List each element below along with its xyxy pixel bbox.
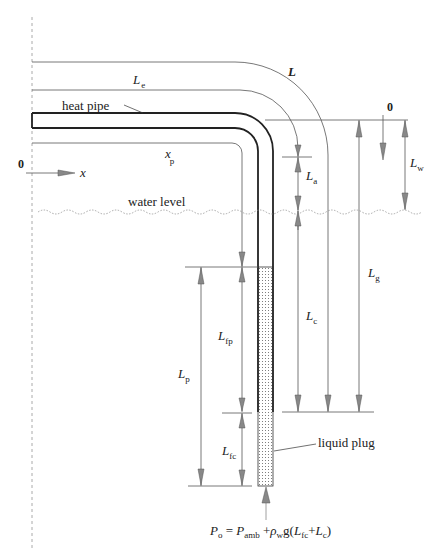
label-Lp: Lp xyxy=(177,366,190,384)
label-Lw: Lw xyxy=(409,155,424,173)
Lp-arrow-down xyxy=(198,469,204,485)
water-level-label: water level xyxy=(128,194,186,209)
label-Lfp: Lfp xyxy=(217,328,233,346)
x-axis-label: x xyxy=(79,165,86,180)
Lw-arrow-up xyxy=(402,121,408,137)
x-axis-arrowhead xyxy=(58,170,75,176)
label-Le: Le xyxy=(132,72,145,90)
Lg-arrow-up xyxy=(356,121,362,137)
Lw-arrow-down xyxy=(402,193,408,209)
Lfc-arrow-down xyxy=(239,470,245,485)
heat-pipe-outer-wall xyxy=(32,113,273,412)
liquid-plug-label: liquid plug xyxy=(318,435,375,450)
heat-pipe-label: heat pipe xyxy=(62,98,110,113)
length-L-curve xyxy=(32,62,328,412)
pressure-arrowhead xyxy=(262,487,270,503)
z-axis-arrowhead xyxy=(380,143,386,160)
heat-pipe-inner-wall xyxy=(32,128,258,412)
label-L: L xyxy=(287,64,296,79)
xp-curve xyxy=(32,143,242,412)
label-La: La xyxy=(305,168,317,186)
Lg-arrow-down xyxy=(356,395,362,411)
label-Lfc: Lfc xyxy=(221,443,236,461)
Lfp-arrow-up xyxy=(239,268,245,282)
Lp-arrow-up xyxy=(198,268,204,284)
liquid-plug xyxy=(258,267,273,486)
label-Lg: Lg xyxy=(367,265,380,283)
water-level-line xyxy=(38,210,422,214)
Le-arrow-down xyxy=(295,145,301,156)
label-Lc: Lc xyxy=(305,308,317,326)
origin-zero-x: 0 xyxy=(18,157,24,171)
label-xp: xp xyxy=(164,146,175,166)
heat-pipe-diagram: heat pipe L Le xp 0 x 0 Lw Lg La Lc wate… xyxy=(0,0,445,552)
La-arrow-down xyxy=(295,196,301,210)
La-arrow-up xyxy=(295,158,301,172)
L-arrow-down xyxy=(325,395,331,411)
heat-pipe-leader xyxy=(124,105,143,113)
Lc-arrow-down xyxy=(295,395,301,411)
pressure-equation: Po = Pamb +ρwg(Lfc+Lc) xyxy=(209,523,331,540)
Lfc-arrow-up xyxy=(239,414,245,428)
origin-zero-z: 0 xyxy=(387,100,393,114)
liquid-plug-leader xyxy=(274,444,316,451)
xp-arrow-down xyxy=(239,252,245,266)
Lfp-arrow-down xyxy=(239,398,245,411)
